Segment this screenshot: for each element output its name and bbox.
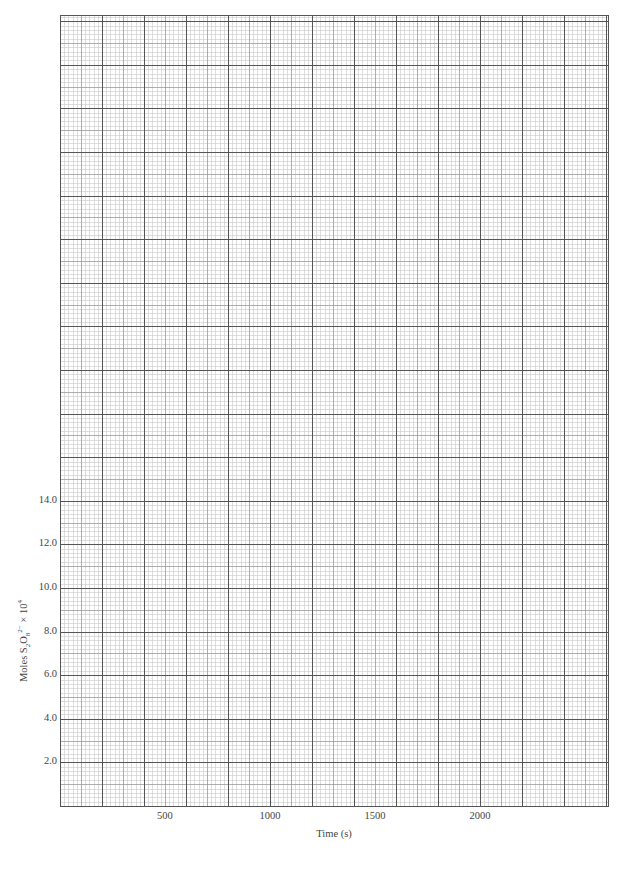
y-tick-label: 14.0 <box>17 494 57 505</box>
y-label-charge: 2− <box>16 625 24 632</box>
x-axis-label: Time (s) <box>284 828 384 839</box>
y-label-sub1: 2 <box>24 644 32 648</box>
y-tick-label: 2.0 <box>17 755 57 766</box>
y-tick-label: 4.0 <box>17 712 57 723</box>
y-label-mid: O <box>18 636 29 644</box>
x-tick-label: 1500 <box>350 810 400 821</box>
x-tick-label: 1000 <box>245 810 295 821</box>
x-tick-label: 500 <box>140 810 190 821</box>
y-label-prefix: Moles S <box>18 647 29 682</box>
y-label-exponent: 4 <box>16 600 24 604</box>
y-tick-label: 12.0 <box>17 537 57 548</box>
y-tick-label: 10.0 <box>17 581 57 592</box>
y-axis-label: Moles S2O82− × 104 <box>16 600 32 682</box>
y-label-suffix: × 10 <box>18 604 29 626</box>
y-label-sub2: 8 <box>24 633 32 637</box>
graph-paper-grid <box>0 0 631 869</box>
x-tick-label: 2000 <box>455 810 505 821</box>
